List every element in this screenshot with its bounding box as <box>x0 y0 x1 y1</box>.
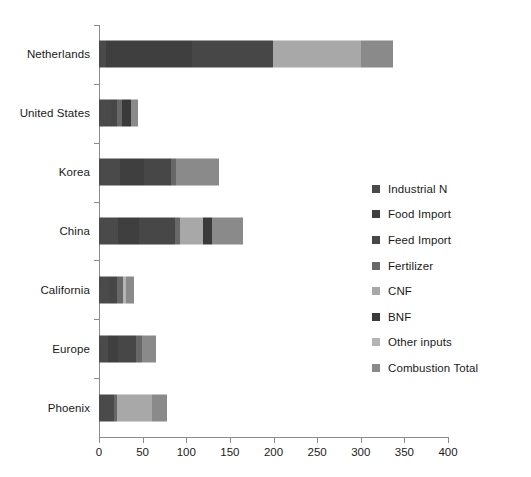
legend-label: CNF <box>388 285 412 297</box>
legend-label: Food Import <box>388 208 451 220</box>
bar-row: Netherlands <box>99 25 448 84</box>
legend-swatch-icon <box>372 185 380 193</box>
legend-item[interactable]: Industrial N <box>372 176 522 202</box>
chart-legend: Industrial NFood ImportFeed ImportFertil… <box>372 176 522 381</box>
x-axis-tick <box>404 437 405 443</box>
bar-segment[interactable] <box>152 394 167 421</box>
bar-segment[interactable] <box>99 394 114 421</box>
legend-item[interactable]: Other inputs <box>372 330 522 356</box>
category-label: Phoenix <box>48 402 90 414</box>
legend-swatch-icon <box>372 313 380 321</box>
legend-item[interactable]: Feed Import <box>372 227 522 253</box>
y-axis-tick <box>94 260 99 261</box>
bar-segment[interactable] <box>212 217 243 244</box>
y-axis-tick <box>94 84 99 85</box>
bar-segment[interactable] <box>117 394 152 421</box>
x-axis-tick-label: 50 <box>136 446 149 458</box>
bar-segment[interactable] <box>142 335 156 362</box>
legend-item[interactable]: Food Import <box>372 202 522 228</box>
x-axis-tick-label: 100 <box>177 446 196 458</box>
bar-segment[interactable] <box>180 217 203 244</box>
legend-label: Industrial N <box>388 183 447 195</box>
stacked-bar[interactable] <box>99 335 156 362</box>
legend-swatch-icon <box>372 236 380 244</box>
bar-segment[interactable] <box>120 159 144 186</box>
stacked-bar[interactable] <box>99 41 393 68</box>
bar-segment[interactable] <box>203 217 212 244</box>
bar-segment[interactable] <box>192 41 273 68</box>
bar-segment[interactable] <box>108 335 118 362</box>
stacked-bar[interactable] <box>99 159 219 186</box>
bar-segment[interactable] <box>139 217 175 244</box>
x-axis-tick-label: 400 <box>438 446 457 458</box>
bar-segment[interactable] <box>273 41 360 68</box>
x-axis-tick <box>230 437 231 443</box>
stacked-bar[interactable] <box>99 217 243 244</box>
stacked-bar[interactable] <box>99 100 138 127</box>
y-axis-tick <box>94 25 99 26</box>
bar-segment[interactable] <box>131 100 138 127</box>
bar-segment[interactable] <box>106 41 192 68</box>
legend-item[interactable]: CNF <box>372 278 522 304</box>
bar-segment[interactable] <box>122 100 132 127</box>
x-axis-tick <box>186 437 187 443</box>
x-axis-tick-label: 250 <box>308 446 327 458</box>
x-axis-tick-label: 350 <box>395 446 414 458</box>
bar-segment[interactable] <box>361 41 393 68</box>
x-axis-tick <box>317 437 318 443</box>
y-axis-tick <box>94 319 99 320</box>
x-axis-tick-label: 300 <box>351 446 370 458</box>
legend-label: BNF <box>388 311 411 323</box>
bar-segment[interactable] <box>99 41 106 68</box>
x-axis-tick-label: 0 <box>96 446 102 458</box>
x-axis-tick <box>274 437 275 443</box>
bar-segment[interactable] <box>99 100 111 127</box>
x-axis-tick <box>448 437 449 443</box>
legend-item[interactable]: BNF <box>372 304 522 330</box>
legend-swatch-icon <box>372 338 380 346</box>
y-axis-tick <box>94 143 99 144</box>
legend-label: Combustion Total <box>388 362 478 374</box>
legend-swatch-icon <box>372 262 380 270</box>
category-label: China <box>59 225 90 237</box>
bar-segment[interactable] <box>99 335 108 362</box>
stacked-bar[interactable] <box>99 276 134 303</box>
bar-segment[interactable] <box>99 217 118 244</box>
bar-row: Phoenix <box>99 378 448 437</box>
legend-swatch-icon <box>372 287 380 295</box>
bar-segment[interactable] <box>176 159 220 186</box>
x-axis-tick <box>99 437 100 443</box>
legend-swatch-icon <box>372 210 380 218</box>
legend-item[interactable]: Combustion Total <box>372 355 522 381</box>
x-axis-tick <box>361 437 362 443</box>
bar-segment[interactable] <box>118 217 139 244</box>
category-label: United States <box>20 107 90 119</box>
y-axis-tick <box>94 378 99 379</box>
stacked-bar-chart: NetherlandsUnited StatesKoreaChinaCalifo… <box>0 0 531 477</box>
category-label: California <box>40 284 90 296</box>
y-axis-tick <box>94 202 99 203</box>
legend-swatch-icon <box>372 364 380 372</box>
x-axis-tick-label: 150 <box>220 446 239 458</box>
legend-label: Other inputs <box>388 336 452 348</box>
category-label: Netherlands <box>27 48 90 60</box>
x-axis-tick <box>143 437 144 443</box>
legend-label: Fertilizer <box>388 260 433 272</box>
bar-segment[interactable] <box>99 159 120 186</box>
category-label: Korea <box>59 166 90 178</box>
bar-segment[interactable] <box>118 335 135 362</box>
bar-segment[interactable] <box>126 276 134 303</box>
bar-segment[interactable] <box>109 276 117 303</box>
bar-segment[interactable] <box>99 276 109 303</box>
bar-row: United States <box>99 84 448 143</box>
legend-item[interactable]: Fertilizer <box>372 253 522 279</box>
bar-segment[interactable] <box>144 159 170 186</box>
category-label: Europe <box>52 343 90 355</box>
legend-label: Feed Import <box>388 234 451 246</box>
stacked-bar[interactable] <box>99 394 167 421</box>
x-axis-tick-label: 200 <box>264 446 283 458</box>
